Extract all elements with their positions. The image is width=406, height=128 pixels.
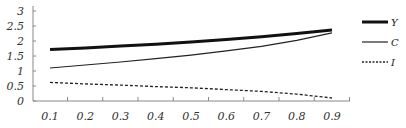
x-tick-label: 0.5	[182, 110, 200, 123]
y-ticks: 00.511.522.53	[6, 5, 37, 108]
y-tick-label: 1.5	[7, 50, 25, 63]
x-tick-label: 0.7	[253, 110, 271, 123]
y-tick-label: 2.5	[6, 20, 25, 33]
legend-label-i: I	[390, 57, 396, 68]
series-line-y	[50, 30, 332, 50]
x-tick-label: 0.8	[288, 110, 306, 123]
y-tick-label: 0	[17, 95, 24, 108]
line-chart: 00.511.522.53 0.10.20.30.40.50.60.70.80.…	[0, 0, 406, 128]
x-tick-label: 0.9	[323, 110, 341, 123]
y-tick-label: 3	[17, 5, 24, 18]
y-tick-label: 2	[16, 35, 24, 48]
y-tick-label: 0.5	[7, 80, 25, 93]
legend-label-c: C	[391, 37, 399, 48]
x-tick-label: 0.3	[112, 110, 130, 123]
x-tick-label: 0.6	[218, 110, 236, 123]
legend-label-y: Y	[391, 17, 399, 28]
x-tick-label: 0.4	[147, 110, 165, 123]
y-tick-label: 1	[17, 65, 24, 78]
x-tick-label: 0.2	[77, 110, 95, 123]
series-line-c	[50, 33, 332, 68]
series-group	[50, 30, 332, 98]
x-tick-label: 0.1	[41, 110, 59, 123]
series-line-i	[50, 82, 332, 98]
legend: YCI	[362, 17, 399, 68]
